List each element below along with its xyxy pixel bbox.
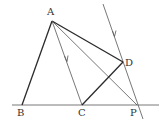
segment-ac [52, 21, 82, 105]
label-b: B [17, 107, 24, 118]
parallel-arrow-icon [113, 31, 117, 37]
segment-ab [22, 21, 52, 105]
segment-cd [82, 62, 123, 105]
label-c: C [78, 107, 86, 118]
label-p: P [130, 107, 137, 118]
geometry-diagram: A B C D P [0, 0, 167, 123]
label-d: D [125, 57, 133, 68]
label-a: A [46, 6, 55, 17]
